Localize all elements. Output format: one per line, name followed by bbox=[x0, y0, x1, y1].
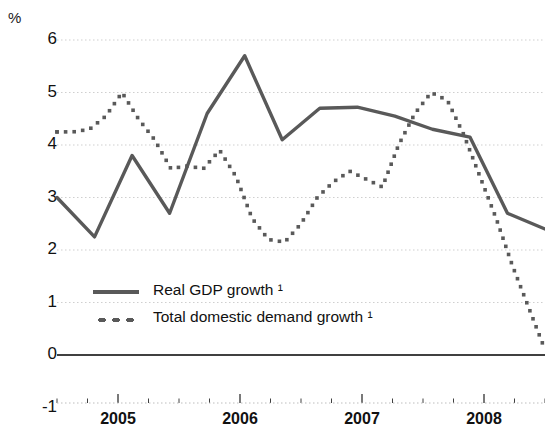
series-dot-total-domestic-demand-growth bbox=[341, 174, 345, 178]
series-dot-total-domestic-demand-growth bbox=[516, 277, 520, 281]
series-dot-total-domestic-demand-growth bbox=[248, 212, 252, 216]
series-dot-total-domestic-demand-growth bbox=[122, 94, 126, 98]
series-dot-total-domestic-demand-growth bbox=[239, 188, 243, 192]
legend-label-total-domestic-demand-growth: Total domestic demand growth ¹ bbox=[153, 308, 373, 326]
series-dot-total-domestic-demand-growth bbox=[96, 121, 100, 125]
series-dot-total-domestic-demand-growth bbox=[501, 236, 505, 240]
series-dot-total-domestic-demand-growth bbox=[334, 179, 338, 183]
series-dot-total-domestic-demand-growth bbox=[89, 126, 93, 130]
series-dot-total-domestic-demand-growth bbox=[208, 160, 212, 164]
series-dot-total-domestic-demand-growth bbox=[498, 228, 502, 232]
series-dot-total-domestic-demand-growth bbox=[507, 253, 511, 257]
series-dot-total-domestic-demand-growth bbox=[177, 166, 181, 170]
series-dot-total-domestic-demand-growth bbox=[379, 185, 383, 189]
series-dot-total-domestic-demand-growth bbox=[474, 164, 478, 168]
series-dot-total-domestic-demand-growth bbox=[64, 130, 68, 134]
series-dot-total-domestic-demand-growth bbox=[386, 170, 390, 174]
series-dot-total-domestic-demand-growth bbox=[141, 123, 145, 127]
series-dot-total-domestic-demand-growth bbox=[258, 226, 262, 230]
series-dot-total-domestic-demand-growth bbox=[213, 154, 217, 158]
series-dot-total-domestic-demand-growth bbox=[136, 116, 140, 120]
series-dot-total-domestic-demand-growth bbox=[242, 196, 246, 200]
series-dot-total-domestic-demand-growth bbox=[534, 325, 538, 329]
series-dot-total-domestic-demand-growth bbox=[131, 108, 135, 112]
series-dot-total-domestic-demand-growth bbox=[296, 225, 300, 229]
series-dot-total-domestic-demand-growth bbox=[263, 233, 267, 237]
series-dot-total-domestic-demand-growth bbox=[372, 181, 376, 185]
series-dot-total-domestic-demand-growth bbox=[228, 165, 232, 169]
series-dot-total-domestic-demand-growth bbox=[72, 130, 76, 134]
series-dot-total-domestic-demand-growth bbox=[510, 261, 514, 265]
series-dot-total-domestic-demand-growth bbox=[252, 219, 256, 223]
series-dot-total-domestic-demand-growth bbox=[364, 177, 368, 181]
legend-item-real-gdp-growth: Real GDP growth ¹ bbox=[93, 281, 383, 303]
series-dot-total-domestic-demand-growth bbox=[269, 238, 273, 242]
series-dot-total-domestic-demand-growth bbox=[458, 124, 462, 128]
series-dot-total-domestic-demand-growth bbox=[389, 162, 393, 166]
series-dot-total-domestic-demand-growth bbox=[504, 245, 508, 249]
series-dot-total-domestic-demand-growth bbox=[232, 172, 236, 176]
gridlines bbox=[57, 40, 545, 303]
series-dot-total-domestic-demand-growth bbox=[169, 166, 173, 170]
series-dot-total-domestic-demand-growth bbox=[102, 116, 106, 120]
series-dot-total-domestic-demand-growth bbox=[541, 341, 545, 345]
series-dot-total-domestic-demand-growth bbox=[291, 231, 295, 235]
series-dot-total-domestic-demand-growth bbox=[327, 184, 331, 188]
series-dot-total-domestic-demand-growth bbox=[403, 131, 407, 135]
series-dot-total-domestic-demand-growth bbox=[493, 212, 497, 216]
series-dot-total-domestic-demand-growth bbox=[447, 101, 451, 105]
series-dot-total-domestic-demand-growth bbox=[236, 180, 240, 184]
series-dot-total-domestic-demand-growth bbox=[468, 148, 472, 152]
series-dot-total-domestic-demand-growth bbox=[396, 146, 400, 150]
series-dot-total-domestic-demand-growth bbox=[356, 173, 360, 177]
series-dot-total-domestic-demand-growth bbox=[416, 108, 420, 112]
series-dot-total-domestic-demand-growth bbox=[348, 170, 352, 174]
series-dot-total-domestic-demand-growth bbox=[285, 238, 289, 242]
x-axis-year-label: 2005 bbox=[100, 410, 136, 428]
legend-swatch-dotted-line-icon bbox=[93, 318, 139, 322]
series-dot-total-domestic-demand-growth bbox=[185, 164, 189, 168]
series-dot-total-domestic-demand-growth bbox=[483, 188, 487, 192]
series-dot-total-domestic-demand-growth bbox=[461, 132, 465, 136]
series-dot-total-domestic-demand-growth bbox=[55, 130, 59, 134]
series-dot-total-domestic-demand-growth bbox=[496, 220, 500, 224]
series-dot-total-domestic-demand-growth bbox=[513, 269, 517, 273]
plot-area bbox=[0, 0, 545, 433]
series-dot-total-domestic-demand-growth bbox=[531, 317, 535, 321]
series-dot-total-domestic-demand-growth bbox=[477, 172, 481, 176]
legend-label-real-gdp-growth: Real GDP growth ¹ bbox=[153, 281, 283, 299]
series-dot-total-domestic-demand-growth bbox=[117, 95, 121, 99]
series-dot-total-domestic-demand-growth bbox=[537, 333, 541, 337]
series-dot-total-domestic-demand-growth bbox=[219, 150, 223, 154]
series-dot-total-domestic-demand-growth bbox=[421, 102, 425, 106]
gdp-growth-chart: % 6543210-1 2005200620072008 Real GDP gr… bbox=[0, 0, 545, 433]
series-dot-total-domestic-demand-growth bbox=[383, 178, 387, 182]
series-dot-total-domestic-demand-growth bbox=[245, 204, 249, 208]
series-dot-total-domestic-demand-growth bbox=[156, 144, 160, 148]
series-dot-total-domestic-demand-growth bbox=[426, 95, 430, 99]
series-dot-total-domestic-demand-growth bbox=[392, 154, 396, 158]
series-dot-total-domestic-demand-growth bbox=[315, 196, 319, 200]
series-dot-total-domestic-demand-growth bbox=[522, 293, 526, 297]
x-axis-year-label: 2007 bbox=[344, 410, 380, 428]
series-dot-total-domestic-demand-growth bbox=[278, 239, 282, 243]
x-axis-year-label: 2006 bbox=[222, 410, 258, 428]
series-dot-total-domestic-demand-growth bbox=[528, 309, 532, 313]
x-axis-ticks bbox=[57, 394, 545, 403]
series-dot-total-domestic-demand-growth bbox=[407, 123, 411, 127]
series-dot-total-domestic-demand-growth bbox=[480, 180, 484, 184]
series-dot-total-domestic-demand-growth bbox=[321, 190, 325, 194]
series-dot-total-domestic-demand-growth bbox=[151, 136, 155, 140]
chart-legend: Real GDP growth ¹ Total domestic demand … bbox=[93, 281, 383, 333]
series-dot-total-domestic-demand-growth bbox=[471, 156, 475, 160]
series-dot-total-domestic-demand-growth bbox=[450, 109, 454, 113]
series-dot-total-domestic-demand-growth bbox=[525, 301, 529, 305]
series-dot-total-domestic-demand-growth bbox=[127, 101, 131, 105]
x-axis-year-label: 2008 bbox=[466, 410, 502, 428]
series-dot-total-domestic-demand-growth bbox=[164, 159, 168, 163]
series-line-real-gdp-growth bbox=[57, 56, 545, 237]
series-dot-total-domestic-demand-growth bbox=[146, 129, 150, 133]
series-dot-total-domestic-demand-growth bbox=[454, 116, 458, 120]
series-dot-total-domestic-demand-growth bbox=[490, 204, 494, 208]
legend-item-total-domestic-demand-growth: Total domestic demand growth ¹ bbox=[93, 308, 383, 330]
